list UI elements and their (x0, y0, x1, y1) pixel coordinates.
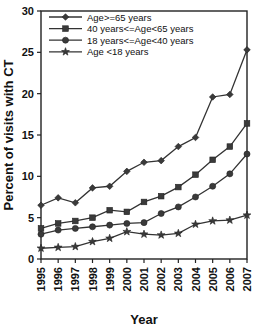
x-tick-label: 2000 (121, 267, 133, 291)
legend-label: 40 years<=Age<65 years (87, 23, 194, 34)
data-point (107, 222, 113, 228)
data-point (141, 199, 147, 205)
x-tick-label: 1998 (87, 267, 99, 291)
y-tick-label: 20 (22, 88, 34, 100)
series-line (41, 50, 247, 205)
x-tick-label: 2001 (138, 267, 150, 291)
data-point (192, 220, 200, 227)
legend-marker (62, 14, 69, 21)
data-point (71, 242, 79, 249)
y-tick-label: 30 (22, 5, 34, 17)
data-point (124, 209, 130, 215)
x-tick-label: 1997 (69, 267, 81, 291)
x-tick-label: 2004 (190, 266, 202, 291)
data-point (38, 202, 45, 209)
y-tick-label: 5 (28, 212, 34, 224)
legend-marker (62, 48, 70, 55)
data-point (176, 184, 182, 190)
y-tick-label: 10 (22, 170, 34, 182)
series-3 (37, 211, 251, 252)
legend-marker (62, 37, 68, 43)
y-tick-label: 0 (28, 253, 34, 265)
data-point (210, 183, 216, 189)
series-0 (38, 47, 251, 209)
data-point (90, 215, 96, 221)
data-point (124, 220, 130, 226)
ct-usage-line-chart: 0510152025301995199619971998199920002001… (0, 0, 258, 329)
x-tick-label: 1995 (35, 267, 47, 291)
legend-marker (63, 26, 69, 32)
data-point (38, 226, 44, 232)
x-tick-label: 1999 (104, 267, 116, 291)
data-point (140, 230, 148, 237)
data-point (244, 47, 251, 54)
data-point (175, 204, 181, 210)
data-point (55, 195, 62, 202)
data-point (123, 228, 131, 235)
data-point (193, 172, 199, 178)
legend-label: Age <18 years (87, 46, 149, 57)
x-tick-label: 2003 (172, 267, 184, 291)
data-point (226, 216, 234, 223)
data-point (158, 193, 164, 199)
series-1 (38, 121, 250, 232)
data-point (244, 121, 250, 127)
data-point (210, 157, 216, 163)
data-point (54, 243, 62, 250)
x-tick-label: 2002 (155, 267, 167, 291)
chart-figure: 0510152025301995199619971998199920002001… (0, 0, 258, 329)
data-point (107, 207, 113, 213)
data-point (89, 238, 97, 245)
data-point (72, 225, 78, 231)
data-point (209, 217, 217, 224)
data-point (89, 224, 95, 230)
y-tick-label: 15 (22, 129, 34, 141)
data-point (227, 91, 234, 98)
data-point (192, 134, 199, 141)
data-point (55, 221, 61, 227)
data-point (192, 194, 198, 200)
series-line (41, 123, 247, 228)
y-axis-title: Percent of visits with CT (1, 59, 16, 210)
data-point (158, 210, 164, 216)
x-tick-label: 2006 (224, 267, 236, 291)
data-point (174, 229, 182, 236)
x-tick-label: 1996 (52, 267, 64, 291)
legend-label: Age>=65 years (87, 12, 152, 23)
data-point (227, 171, 233, 177)
data-point (141, 220, 147, 226)
y-tick-label: 25 (22, 46, 34, 58)
data-point (141, 159, 148, 166)
legend: Age>=65 years40 years<=Age<65 years18 ye… (49, 12, 194, 58)
data-point (157, 231, 165, 238)
data-point (55, 227, 61, 233)
data-point (209, 94, 216, 101)
x-axis-title: Year (130, 312, 157, 327)
data-point (73, 218, 79, 224)
x-tick-label: 2007 (241, 267, 253, 291)
data-point (38, 231, 44, 237)
data-point (244, 151, 250, 157)
legend-label: 18 years<=Age<40 years (87, 35, 194, 46)
data-point (227, 144, 233, 150)
data-point (106, 234, 114, 241)
x-tick-label: 2005 (207, 267, 219, 291)
